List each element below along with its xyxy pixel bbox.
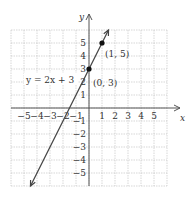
point-label-0-3: (0, 3) [93, 78, 117, 88]
y-tick-label: −5 [73, 168, 87, 178]
y-tick-label: 1 [80, 90, 86, 100]
x-tick-label: 5 [151, 111, 157, 121]
x-axis-label: x [180, 113, 185, 123]
y-tick-label: −4 [73, 155, 87, 165]
point-label-1-5: (1, 5) [105, 49, 129, 59]
y-tick-label: 3 [80, 64, 86, 74]
equation-label: y = 2x + 3 [25, 75, 74, 85]
x-tick-label: 1 [99, 111, 105, 121]
x-tick-label: −3 [43, 111, 57, 121]
graph: xy−5−4−3−2−11234554321−1−2−3−4−5(0, 3)(1… [0, 0, 190, 202]
x-tick-label: −5 [17, 111, 31, 121]
data-point [99, 40, 104, 45]
x-tick-label: 4 [138, 111, 144, 121]
y-tick-label: 4 [80, 51, 86, 61]
x-tick-label: 3 [125, 111, 131, 121]
y-tick-label: 5 [80, 38, 86, 48]
x-tick-label: −4 [30, 111, 44, 121]
data-point [86, 66, 91, 71]
y-tick-label: −1 [73, 116, 86, 126]
x-tick-label: 2 [112, 111, 118, 121]
y-tick-label: −2 [73, 129, 86, 139]
y-tick-label: −3 [73, 142, 87, 152]
y-axis-label: y [78, 12, 85, 22]
